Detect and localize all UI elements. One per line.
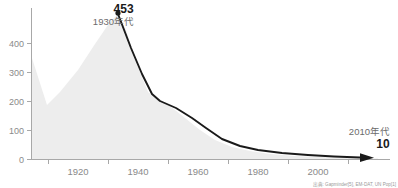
y-axis-ticks (27, 44, 32, 160)
line-chart-plot: 0 100 200 300 400 1920 1940 1960 1980 20… (0, 0, 398, 188)
x-axis-ticks (49, 160, 349, 165)
source-note: 出典: Gapminder[5], EM-DAT, UN Pop[1] (313, 182, 396, 188)
peak-annotation: 453 1930年代 (62, 3, 134, 28)
end-value-label: 10 (318, 138, 390, 151)
chart-container: 0 100 200 300 400 1920 1940 1960 1980 20… (0, 0, 398, 188)
x-tick-label: 1960 (187, 166, 208, 177)
x-axis-tick-labels: 1920 1940 1960 1980 2000 (67, 166, 328, 177)
x-tick-label: 2000 (307, 166, 328, 177)
x-tick-label: 1940 (127, 166, 148, 177)
end-annotation: 2010年代 10 (318, 126, 390, 151)
y-tick-label: 200 (9, 97, 24, 107)
peak-value-label: 453 (62, 3, 134, 16)
y-axis-tick-labels: 0 100 200 300 400 (9, 39, 24, 165)
peak-period-label: 1930年代 (62, 16, 134, 28)
y-tick-label: 300 (9, 68, 24, 78)
x-tick-label: 1920 (67, 166, 88, 177)
y-tick-label: 100 (9, 126, 24, 136)
line-arrowhead-icon (360, 153, 374, 162)
y-tick-label: 0 (19, 155, 24, 165)
y-tick-label: 400 (9, 39, 24, 49)
x-tick-label: 1980 (247, 166, 268, 177)
